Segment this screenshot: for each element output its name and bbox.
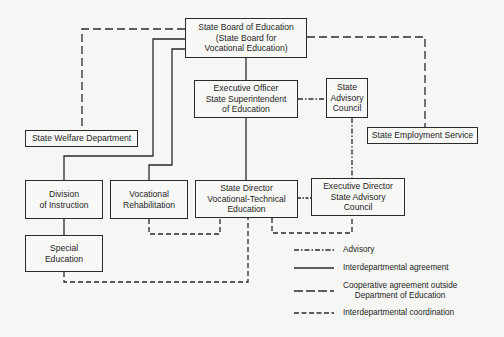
box-text: Education [227,204,265,214]
box-text: State Welfare Department [32,133,131,143]
box-text: State Director [220,183,273,193]
box-text: State [337,82,357,92]
legend-advisory-label: Advisory [343,245,374,255]
box-state-employment: State Employment Service [367,127,478,144]
box-text: (State Board for [216,33,277,43]
legend-agreement-label: Interdepartmental agreement [343,263,449,273]
box-text: Vocational Education) [204,43,287,53]
box-text: of Instruction [39,200,88,210]
box-executive-director: Executive Director State Advisory Counci… [311,178,405,216]
box-executive-officer: Executive Officer State Superintendent o… [194,80,298,118]
legend-cooperative-line2: Department of Education [343,291,457,301]
box-text: Vocational-Technical [207,194,285,204]
box-vocational-rehab: Vocational Rehabilitation [110,180,188,219]
box-text: State Board of Education [198,22,294,32]
box-text: Advisory [331,93,364,103]
box-division-instruction: Division of Instruction [25,180,103,219]
box-text: State Employment Service [372,130,473,140]
line-state-director-to-exec-director-coord [272,216,352,233]
box-text: Education [45,254,83,264]
box-text: of Education [222,104,270,114]
box-text: Vocational [129,189,169,199]
box-text: Executive Officer [214,83,279,93]
box-state-advisory-council: State Advisory Council [326,78,368,118]
legend-cooperative-line1: Cooperative agreement outside [343,281,457,291]
line-board-to-voc-rehab [149,49,185,180]
legend-coordination-label: Interdepartmental coordination [343,308,454,318]
box-text: State Advisory [331,192,386,202]
line-board-to-welfare [82,29,185,130]
box-special-education: Special Education [25,235,103,272]
box-text: Special [50,243,78,253]
box-state-director: State Director Vocational-Technical Educ… [195,180,298,218]
box-text: Council [344,202,373,212]
box-state-welfare: State Welfare Department [25,130,138,147]
box-text: State Superintendent [206,94,287,104]
legend-cooperative-label: Cooperative agreement outside Department… [343,281,457,301]
box-text: Council [333,103,362,113]
box-text: Executive Director [323,181,393,191]
box-text: Rehabilitation [123,200,175,210]
line-voc-rehab-to-state-director [149,219,220,234]
box-text: Division [49,189,79,199]
box-state-board: State Board of Education (State Board fo… [185,18,307,58]
